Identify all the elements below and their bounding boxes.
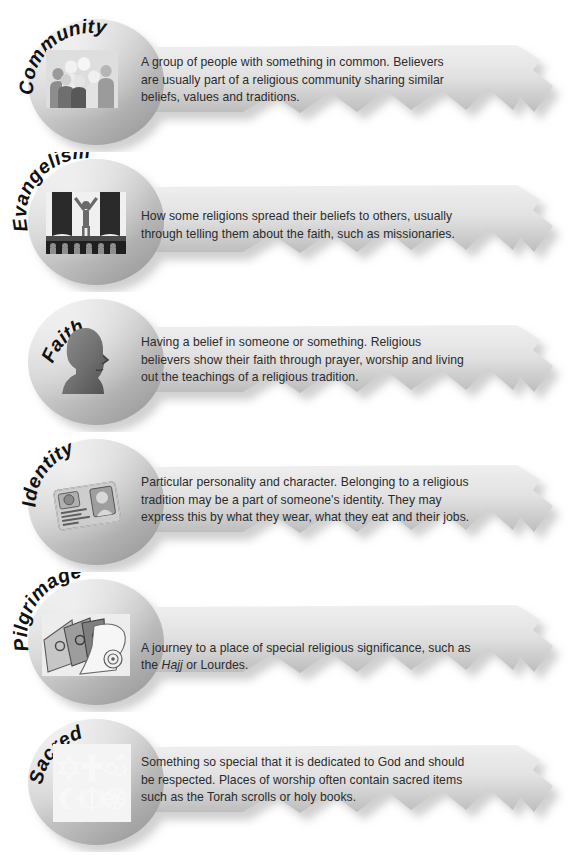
- id-card-icon: [48, 476, 126, 534]
- books-and-scroll-icon: [42, 614, 130, 676]
- crowd-of-people-icon: [46, 50, 118, 108]
- key-words-page: Community: [0, 0, 581, 855]
- key-description-evangelism: How some religions spread their beliefs …: [141, 208, 471, 243]
- key-card-sacred[interactable]: Sacred: [0, 712, 581, 852]
- key-card-evangelism[interactable]: Evangelism: [0, 152, 581, 292]
- key-card-identity[interactable]: Identity: [0, 432, 581, 572]
- key-description-sacred: Something so special that it is dedicate…: [141, 754, 481, 807]
- key-card-pilgrimage[interactable]: Pilgrimage A journey to a place of speci…: [0, 572, 581, 712]
- preacher-on-stage-icon: [46, 192, 126, 254]
- key-description-faith: Having a belief in someone or something.…: [141, 334, 471, 387]
- religious-symbols-grid-icon: [53, 744, 131, 822]
- key-description-community: A group of people with something in comm…: [141, 54, 459, 107]
- key-card-community[interactable]: Community: [0, 12, 581, 152]
- head-profile-silhouette-icon: [56, 326, 116, 394]
- pilgrimage-text-part2: or Lourdes.: [183, 658, 249, 672]
- key-card-faith[interactable]: Faith Having a belief in someone or some…: [0, 292, 581, 432]
- key-description-identity: Particular personality and character. Be…: [141, 474, 486, 527]
- pilgrimage-italic-hajj: Hajj: [162, 658, 183, 672]
- key-description-pilgrimage: A journey to a place of special religiou…: [141, 622, 471, 675]
